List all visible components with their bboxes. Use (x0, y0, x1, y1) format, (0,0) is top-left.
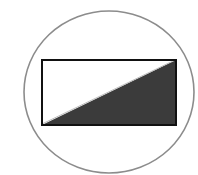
figure-canvas (0, 0, 198, 175)
